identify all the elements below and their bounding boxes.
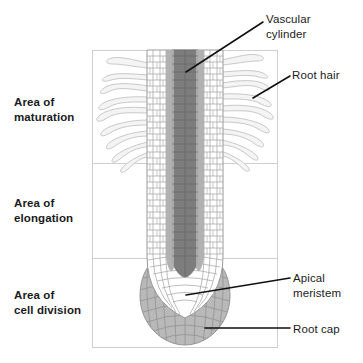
callout-label-vascular-cylinder: Vascular cylinder	[266, 12, 311, 42]
diagram-canvas: Area of maturation Area of elongation Ar…	[0, 0, 363, 363]
callout-label-apical-meristem: Apical meristem	[293, 271, 341, 301]
zone-label-area-of-maturation: Area of maturation	[14, 95, 74, 124]
vascular-cylinder	[166, 50, 204, 288]
callout-label-root-hair: Root hair	[292, 68, 340, 83]
zone-label-area-of-cell-division: Area of cell division	[14, 288, 81, 317]
callout-label-root-cap: Root cap	[293, 322, 340, 337]
zone-label-area-of-elongation: Area of elongation	[14, 196, 73, 225]
